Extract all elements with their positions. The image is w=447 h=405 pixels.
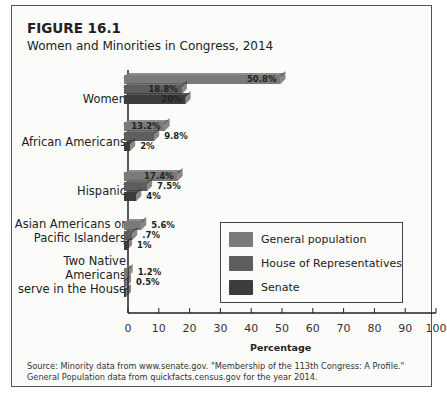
- x-tick-label: 100: [426, 322, 447, 335]
- bar-value-label: 17.4%: [144, 171, 174, 181]
- bar: [123, 217, 146, 230]
- bar-value-label: 2%: [140, 141, 155, 151]
- bar-value-label: 4%: [146, 191, 161, 201]
- bar-value-label: 5.6%: [151, 220, 175, 230]
- legend: General population House of Representati…: [220, 222, 403, 303]
- legend-swatch-icon: [229, 232, 253, 247]
- legend-label: Senate: [261, 281, 300, 294]
- bar-value-label: 13.2%: [131, 121, 161, 131]
- legend-label: General population: [261, 233, 366, 246]
- legend-swatch-icon: [229, 256, 253, 271]
- source-line-1: Source: Minority data from www.senate.go…: [27, 361, 427, 372]
- x-tick-label: 80: [367, 322, 381, 335]
- legend-item-senate: Senate: [229, 277, 300, 297]
- bar-value-label: 20%: [161, 94, 182, 104]
- legend-label: House of Representatives: [261, 257, 402, 270]
- x-tick-label: 10: [152, 322, 166, 335]
- bar-value-label: 18.8%: [148, 84, 178, 94]
- x-tick-label: 0: [125, 322, 132, 335]
- x-tick-label: 50: [275, 322, 289, 335]
- x-tick-label: 90: [398, 322, 412, 335]
- source-line-2: General Population data from quickfacts.…: [27, 372, 427, 383]
- bar-value-label: 1.2%: [138, 267, 162, 277]
- bar-value-label: 50.8%: [247, 74, 277, 84]
- bar-value-label: .7%: [142, 230, 160, 240]
- legend-swatch-icon: [229, 280, 253, 295]
- x-tick-label: 60: [306, 322, 320, 335]
- bar-value-label: 9.8%: [164, 131, 188, 141]
- bar-value-label: 7.5%: [157, 181, 181, 191]
- x-tick-label: 30: [213, 322, 227, 335]
- bar-value-label: 0.5%: [136, 277, 160, 287]
- source-note: Source: Minority data from www.senate.go…: [27, 361, 427, 383]
- x-axis-label: Percentage: [250, 342, 311, 353]
- legend-item-general-population: General population: [229, 229, 366, 249]
- x-tick-label: 70: [337, 322, 351, 335]
- x-tick-label: 40: [244, 322, 258, 335]
- bar-value-label: 1%: [137, 240, 152, 250]
- x-tick-label: 20: [183, 322, 197, 335]
- legend-item-house: House of Representatives: [229, 253, 402, 273]
